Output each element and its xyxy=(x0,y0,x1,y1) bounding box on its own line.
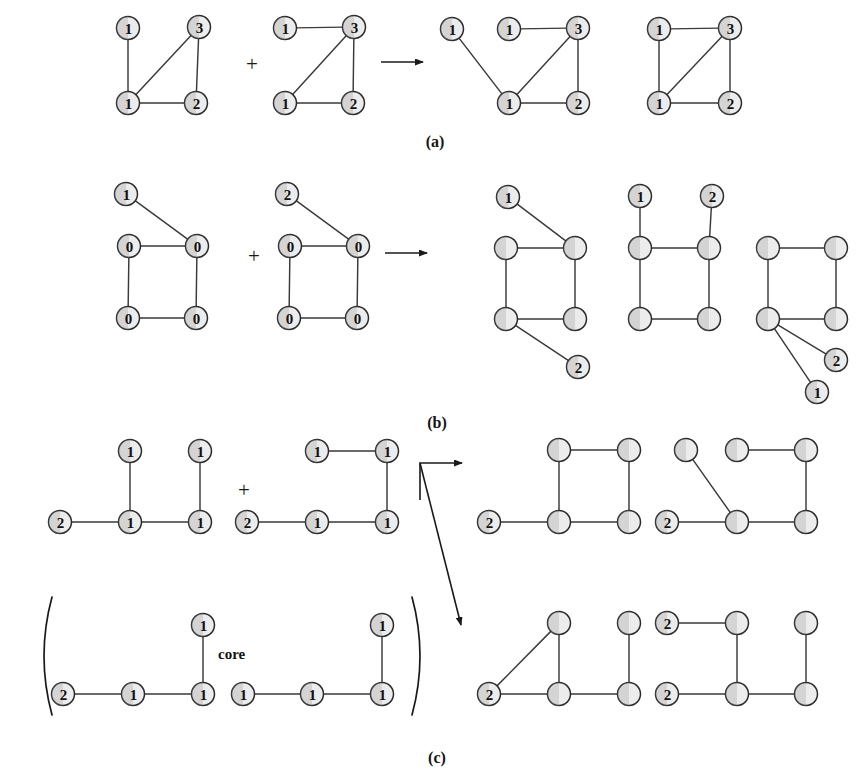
graph-node: 1 xyxy=(117,92,140,115)
graph-node: 1 xyxy=(274,92,297,115)
node-label: 1 xyxy=(384,515,392,531)
graph-node: 2 xyxy=(49,511,72,534)
graph-node: 1 xyxy=(192,683,215,706)
node-label: 1 xyxy=(197,515,205,531)
graph-node: 1 xyxy=(119,440,142,463)
node-label: 1 xyxy=(240,687,248,703)
node-label: 0 xyxy=(125,311,133,327)
graph-node: 2 xyxy=(478,511,501,534)
graph-edge xyxy=(458,37,503,95)
graph-node: 0 xyxy=(347,235,370,258)
graph-node: 2 xyxy=(478,683,501,706)
text-layer: +++(a)(b)(c)core xyxy=(218,52,447,767)
node-label: 0 xyxy=(194,239,202,255)
node-label: 1 xyxy=(656,96,664,112)
node-label: 1 xyxy=(125,21,133,37)
graph-node xyxy=(698,308,721,331)
node-label: 1 xyxy=(130,687,138,703)
graph-node: 3 xyxy=(188,16,211,39)
node-label: 3 xyxy=(727,21,735,37)
node-label: 2 xyxy=(709,189,717,205)
bracket-right xyxy=(412,597,420,715)
graph-node: 1 xyxy=(301,683,324,706)
graph-node xyxy=(726,612,749,635)
graph-node: 1 xyxy=(497,186,520,209)
node-label: 1 xyxy=(314,515,322,531)
graph-node xyxy=(618,511,641,534)
graph-node: 1 xyxy=(119,511,142,534)
node-label: 1 xyxy=(309,687,317,703)
graph-node xyxy=(495,237,518,260)
graph-node xyxy=(618,612,641,635)
graph-node: 2 xyxy=(236,511,259,534)
graph-node: 1 xyxy=(371,614,394,637)
graph-edge xyxy=(516,35,571,95)
graph-edge xyxy=(292,34,348,95)
graph-node: 0 xyxy=(118,235,141,258)
node-label: 1 xyxy=(814,385,822,401)
graph-node: 1 xyxy=(498,18,521,41)
graph-edge xyxy=(135,34,192,95)
graph-node: 2 xyxy=(342,92,365,115)
node-label: 2 xyxy=(833,353,841,369)
graph-node: 2 xyxy=(656,612,679,635)
node-label: 1 xyxy=(379,687,387,703)
graph-node: 1 xyxy=(306,440,329,463)
graph-edge xyxy=(128,256,129,308)
graph-node: 1 xyxy=(806,381,829,404)
graph-node xyxy=(548,683,571,706)
node-label: 1 xyxy=(197,444,205,460)
node-label: 1 xyxy=(125,96,133,112)
node-label: 0 xyxy=(287,239,295,255)
node-label: 2 xyxy=(664,687,672,703)
graph-node: 1 xyxy=(117,17,140,40)
graph-edge xyxy=(357,256,358,308)
node-label: 2 xyxy=(350,96,358,112)
graph-node xyxy=(675,439,698,462)
graph-node xyxy=(757,308,780,331)
graph-node: 0 xyxy=(279,235,302,258)
graph-node: 2 xyxy=(567,356,590,379)
node-label: 2 xyxy=(727,96,735,112)
graph-edge xyxy=(289,256,290,308)
node-label: 0 xyxy=(126,239,134,255)
node-label: 0 xyxy=(286,311,294,327)
node-label: 1 xyxy=(506,22,514,38)
plus-operator: + xyxy=(238,478,250,502)
graph-node: 2 xyxy=(276,183,299,206)
graph-node: 2 xyxy=(656,511,679,534)
graph-node: 2 xyxy=(825,349,848,372)
graph-node: 1 xyxy=(274,17,297,40)
graph-node xyxy=(825,308,848,331)
graph-node: 2 xyxy=(567,92,590,115)
node-label: 2 xyxy=(486,515,494,531)
node-label: 1 xyxy=(123,187,131,203)
graph-edge xyxy=(496,630,552,687)
graph-node: 1 xyxy=(122,683,145,706)
graph-node: 3 xyxy=(719,17,742,40)
graph-edge xyxy=(692,458,731,514)
graph-node xyxy=(618,439,641,462)
graph-node xyxy=(726,683,749,706)
graph-node xyxy=(548,511,571,534)
graph-node xyxy=(629,308,652,331)
graph-node xyxy=(564,237,587,260)
node-label: 1 xyxy=(200,687,208,703)
arrows-layer xyxy=(381,62,462,625)
graph-edge xyxy=(519,28,568,29)
caption-a: (a) xyxy=(426,133,445,151)
graph-node xyxy=(698,237,721,260)
node-label: 2 xyxy=(664,515,672,531)
graph-node xyxy=(548,612,571,635)
arrow-c-up xyxy=(420,463,462,500)
graph-node xyxy=(825,237,848,260)
graph-edge xyxy=(196,256,197,308)
graph-node xyxy=(618,683,641,706)
node-label: 2 xyxy=(575,96,583,112)
node-label: 1 xyxy=(282,96,290,112)
graph-node: 3 xyxy=(567,17,590,40)
graph-node xyxy=(495,308,518,331)
graph-node: 2 xyxy=(701,185,724,208)
caption-b: (b) xyxy=(427,414,447,432)
graph-node xyxy=(795,439,818,462)
